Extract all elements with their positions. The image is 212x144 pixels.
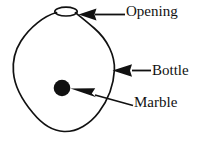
label-marble: Marble <box>134 95 177 110</box>
bottle-leader-arrow <box>113 64 152 77</box>
diagram-canvas: Opening Bottle Marble <box>0 0 212 144</box>
arrow-left-icon <box>113 64 133 77</box>
label-bottle: Bottle <box>152 63 189 78</box>
opening-ellipse <box>55 7 77 16</box>
arrow-left-icon <box>79 9 97 21</box>
label-opening: Opening <box>126 4 178 19</box>
opening-leader-arrow <box>79 9 126 21</box>
bottle-outline <box>13 13 114 132</box>
marble-leader-arrow <box>71 88 134 105</box>
arrow-up-left-icon <box>71 88 97 97</box>
marble-circle <box>54 80 71 97</box>
